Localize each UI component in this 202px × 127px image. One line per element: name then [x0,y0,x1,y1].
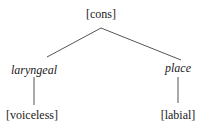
edge-cons-place [101,28,181,60]
node-place: place [165,62,191,74]
edge-cons-laryngeal [47,28,101,57]
feature-tree-diagram: [cons] laryngeal place [voiceless] [labi… [0,0,202,127]
node-labial: [labial] [161,109,196,121]
node-root-cons: [cons] [86,8,116,20]
node-laryngeal: laryngeal [11,64,57,76]
node-voiceless: [voiceless] [6,109,58,121]
